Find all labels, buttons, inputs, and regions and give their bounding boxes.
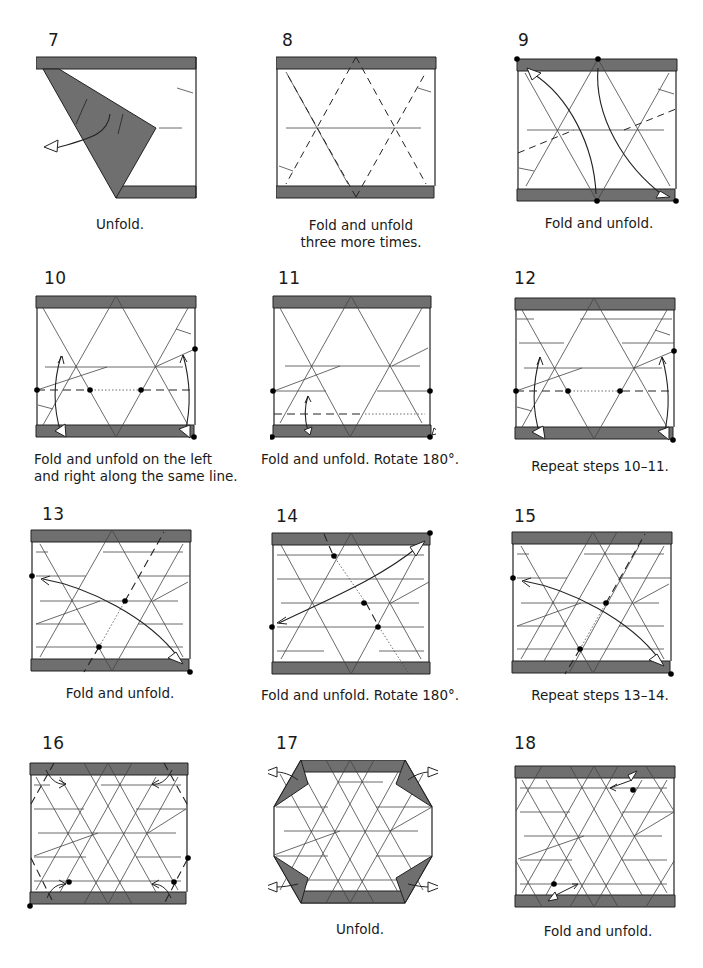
- step-10: 10: [0, 260, 234, 500]
- step-15: 15: [480, 500, 703, 740]
- diagram-step-8: [276, 56, 438, 201]
- step-number: 15: [514, 506, 537, 526]
- step-13: 13: [0, 500, 234, 740]
- step-8: 8 Fold and unfold three more times.: [240, 0, 474, 240]
- diagram-step-18: [512, 763, 678, 913]
- diagram-step-16: [26, 760, 192, 910]
- step-number: 13: [42, 504, 65, 524]
- diagram-step-7: [36, 56, 198, 201]
- step-12: 12: [480, 260, 703, 500]
- step-caption: Fold and unfold. Rotate 180°.: [260, 451, 460, 468]
- step-number: 7: [48, 30, 59, 50]
- step-9: 9 Fold and unfold.: [480, 0, 703, 240]
- diagram-step-10: [33, 293, 199, 443]
- arrow-head-icon: [428, 767, 438, 777]
- step-number: 9: [518, 30, 529, 50]
- step-7: 7 Unfold.: [0, 0, 234, 240]
- step-11: 11 Fold and un: [240, 260, 474, 500]
- unfold-arrow-icon: [44, 140, 58, 152]
- arrow-head-icon: [432, 428, 436, 435]
- step-caption: Repeat steps 10–11.: [520, 458, 680, 475]
- step-number: 10: [44, 268, 67, 288]
- step-number: 8: [282, 30, 293, 50]
- step-14: 14: [240, 500, 474, 740]
- diagram-step-9: [514, 56, 680, 206]
- step-number: 11: [278, 268, 301, 288]
- arrow-head-icon: [428, 882, 438, 892]
- step-number: 14: [276, 506, 299, 526]
- diagram-step-15: [509, 529, 675, 679]
- step-number: 16: [42, 733, 65, 753]
- step-caption: Fold and unfold. Rotate 180°.: [260, 687, 460, 704]
- step-caption: Fold and unfold on the left and right al…: [34, 451, 244, 485]
- step-17: 17: [240, 725, 474, 965]
- step-number: 18: [514, 733, 537, 753]
- step-caption: Unfold.: [60, 216, 180, 233]
- arrow-head-icon: [268, 767, 277, 777]
- diagram-step-12: [512, 295, 678, 445]
- step-caption: Repeat steps 13–14.: [520, 687, 680, 704]
- diagram-step-14: [269, 529, 435, 679]
- diagram-step-17: [268, 760, 438, 910]
- diagram-step-11: [270, 293, 436, 443]
- step-18: 18: [480, 725, 703, 965]
- step-caption: Fold and unfold.: [528, 923, 668, 940]
- arrow-head-icon: [268, 882, 277, 892]
- step-caption: Fold and unfold.: [534, 215, 664, 232]
- step-caption: Fold and unfold.: [50, 685, 190, 702]
- step-number: 17: [276, 733, 299, 753]
- diagram-step-13: [28, 527, 194, 677]
- step-caption: Fold and unfold three more times.: [286, 217, 436, 251]
- step-caption: Unfold.: [300, 921, 420, 938]
- step-16: 16: [0, 725, 234, 965]
- step-number: 12: [514, 268, 537, 288]
